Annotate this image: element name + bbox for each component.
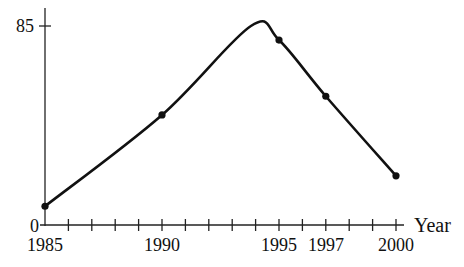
data-point-2000	[392, 172, 399, 179]
data-points	[41, 36, 399, 209]
data-point-1985	[41, 203, 48, 210]
y-tick-label-85: 85	[16, 16, 34, 36]
data-curve	[45, 21, 396, 206]
y-tick-label-0: 0	[30, 216, 39, 236]
line-chart: 85 0 1985 1990 1995 1997 2000 Year	[0, 0, 464, 267]
x-tick-label-1997: 1997	[308, 235, 344, 255]
x-axis-title: Year	[414, 214, 451, 236]
x-tick-label-1985: 1985	[27, 235, 63, 255]
x-tick-label-1990: 1990	[144, 235, 180, 255]
data-point-1990	[158, 111, 165, 118]
x-tick-label-2000: 2000	[378, 235, 414, 255]
x-tick-label-1995: 1995	[261, 235, 297, 255]
data-point-1997	[322, 93, 329, 100]
data-point-1995	[275, 36, 282, 43]
